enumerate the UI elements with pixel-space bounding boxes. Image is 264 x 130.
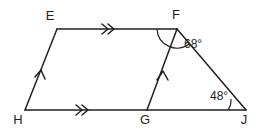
angle-label-J: 48° bbox=[210, 89, 228, 103]
vertex-label-H: H bbox=[13, 112, 22, 127]
parallel-mark-EH bbox=[35, 70, 45, 79]
geometry-figure: E F H G J 68° 48° bbox=[0, 0, 264, 130]
angle-label-F: 68° bbox=[184, 37, 202, 51]
vertex-label-E: E bbox=[46, 8, 55, 23]
vertex-label-J: J bbox=[241, 112, 248, 127]
angle-arc-J bbox=[228, 99, 231, 110]
vertex-label-F: F bbox=[172, 7, 180, 22]
parallel-mark-GF bbox=[157, 71, 168, 80]
vertex-label-G: G bbox=[140, 112, 150, 127]
geometry-canvas: E F H G J 68° 48° bbox=[0, 0, 264, 130]
